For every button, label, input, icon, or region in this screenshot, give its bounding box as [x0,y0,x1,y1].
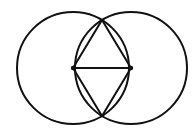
right-center-dot [129,66,133,70]
left-center-dot [71,66,75,70]
vesica-piscis-diagram [0,0,194,131]
